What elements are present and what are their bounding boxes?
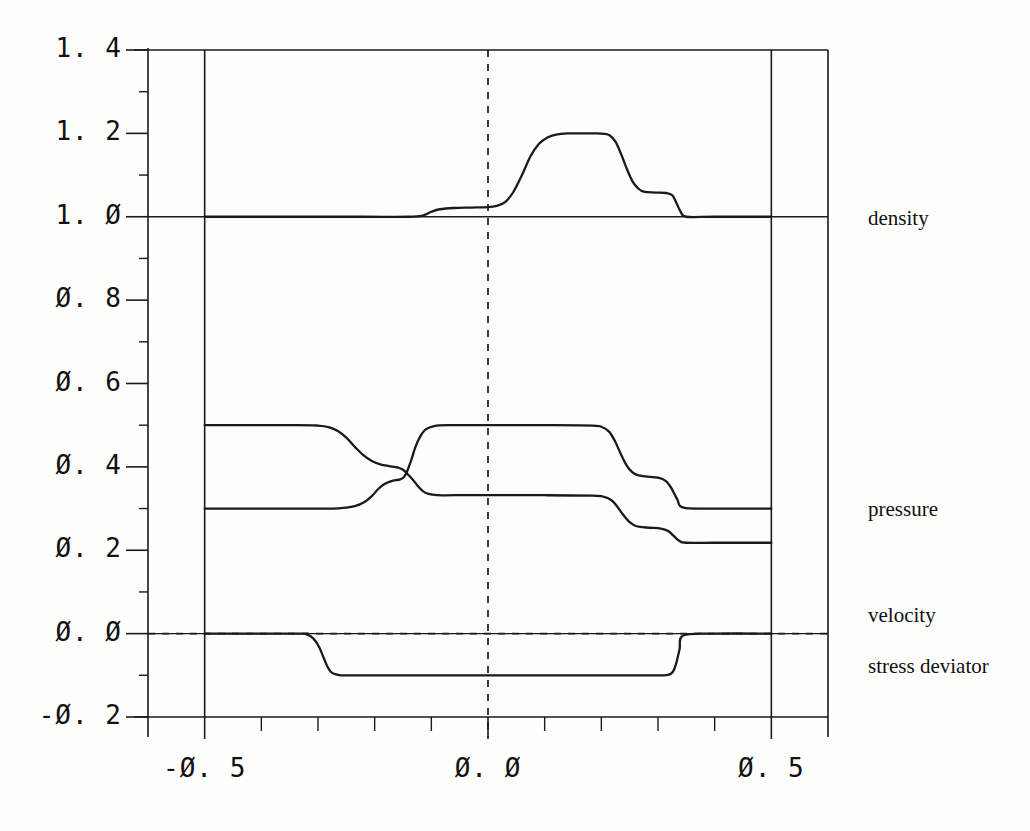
y-tick-label-5: Ø. 4 [10,450,122,480]
plot-root: 1. 4 1. 2 1. Ø Ø. 8 Ø. 6 Ø. 4 Ø. 2 Ø. Ø … [0,0,1030,831]
y-tick-label-1: 1. 2 [10,116,122,146]
y-tick-label-8: -Ø. 2 [10,700,122,730]
x-tick-label-2: Ø. 5 [719,753,823,783]
y-tick-label-2: 1. Ø [10,200,122,230]
x-tick-label-0: -Ø. 5 [153,753,257,783]
curve-label-velocity: velocity [868,603,936,628]
curve-label-density: density [868,206,929,231]
curve-label-pressure: pressure [868,497,938,522]
figure-canvas [0,0,1030,831]
y-tick-label-7: Ø. Ø [10,617,122,647]
y-tick-label-0: 1. 4 [10,33,122,63]
y-tick-label-3: Ø. 8 [10,283,122,313]
curve-label-stress-deviator: stress deviator [868,654,989,679]
y-tick-label-6: Ø. 2 [10,533,122,563]
y-tick-label-4: Ø. 6 [10,367,122,397]
x-tick-label-1: Ø. Ø [436,753,540,783]
axes-layer [126,48,828,739]
